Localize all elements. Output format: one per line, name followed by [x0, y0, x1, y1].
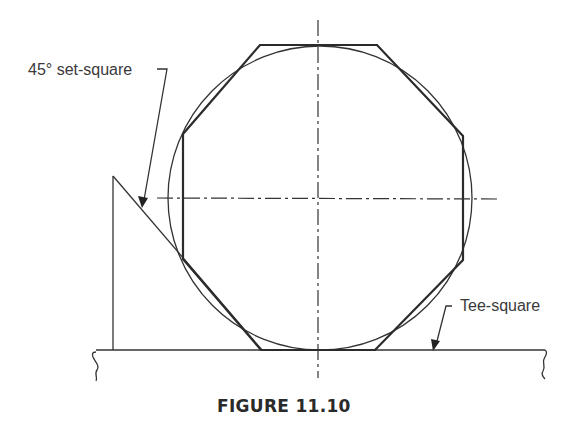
figure-caption: FIGURE 11.10: [217, 396, 351, 416]
octagon-construction-diagram: 45° set-square Tee-square FIGURE 11.10: [0, 0, 578, 429]
octagon: [183, 45, 463, 350]
set-square-leader: [138, 69, 167, 208]
tee-square-leader: [431, 306, 452, 351]
set-square-label: 45° set-square: [28, 61, 132, 78]
horizontal-center-line: [157, 198, 500, 199]
tee-square-label: Tee-square: [460, 297, 540, 314]
tee-square: [92, 350, 546, 381]
